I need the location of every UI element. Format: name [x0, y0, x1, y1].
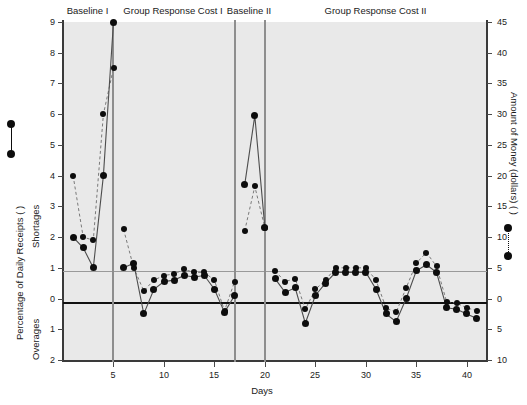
- phase-label: Baseline I: [67, 5, 109, 16]
- data-point: [242, 228, 248, 234]
- data-point: [221, 309, 228, 316]
- y-tick-right: [487, 206, 492, 207]
- y-tick-right: [487, 145, 492, 146]
- y-tick-left: [58, 299, 63, 300]
- y-tick-label-right: 40: [497, 48, 515, 58]
- plot-background: [63, 22, 487, 360]
- y-tick-label-left: 7: [37, 78, 55, 88]
- data-point: [474, 308, 480, 314]
- zero-gridline: [63, 302, 487, 304]
- y-tick-label-right: 0: [497, 294, 515, 304]
- data-point: [272, 275, 279, 282]
- x-tick-label: 10: [152, 370, 176, 380]
- y-axis-left-title: Percentage of Daily Receipts ( ): [14, 206, 25, 340]
- y-tick-right: [487, 268, 492, 269]
- y-tick-left: [58, 237, 63, 238]
- data-point: [332, 269, 339, 276]
- data-point: [80, 244, 87, 251]
- x-tick-label: 25: [303, 370, 327, 380]
- y-tick-right: [487, 83, 492, 84]
- data-point: [232, 279, 238, 285]
- y-axis-left-upper-title: Shortages: [30, 205, 41, 248]
- y-tick-right: [487, 53, 492, 54]
- y-tick-right: [487, 176, 492, 177]
- x-tick: [416, 362, 417, 367]
- data-point: [211, 286, 218, 293]
- legend-right-dot-bottom: [504, 252, 512, 260]
- data-point: [393, 318, 400, 325]
- phase-divider-1: [112, 20, 114, 362]
- y-tick-left: [58, 329, 63, 330]
- phase-label: Group Response Cost I: [123, 5, 222, 16]
- x-tick: [467, 362, 468, 367]
- data-point: [171, 277, 178, 284]
- y-axis-left: [62, 20, 64, 362]
- data-point: [151, 277, 157, 283]
- x-tick: [315, 362, 316, 367]
- data-point: [373, 286, 380, 293]
- y-tick-left: [58, 22, 63, 23]
- legend-right-dot-top: [504, 224, 512, 232]
- data-point: [423, 250, 429, 256]
- phase-divider-2: [234, 20, 236, 362]
- data-point: [282, 289, 289, 296]
- data-point: [322, 280, 329, 287]
- legend-left-dot-bottom: [7, 150, 15, 158]
- phase-label: Group Response Cost II: [325, 5, 427, 16]
- y-tick-right: [487, 299, 492, 300]
- y-tick-left: [58, 83, 63, 84]
- data-point: [292, 276, 298, 282]
- data-point: [282, 279, 288, 285]
- x-tick-label: 5: [101, 370, 125, 380]
- x-tick: [164, 362, 165, 367]
- data-point: [70, 234, 77, 241]
- y-tick-label-right: 5: [497, 324, 515, 334]
- data-point: [110, 19, 117, 26]
- y-tick-label-right: 10: [497, 355, 515, 365]
- y-tick-left: [58, 176, 63, 177]
- x-tick-label: 35: [404, 370, 428, 380]
- data-point: [433, 269, 440, 276]
- x-tick: [214, 362, 215, 367]
- x-tick: [265, 362, 266, 367]
- y-axis-left-lower-title: Overages: [30, 319, 41, 360]
- data-point: [403, 295, 410, 302]
- data-point: [383, 310, 390, 317]
- y-tick-right: [487, 329, 492, 330]
- y-tick-right: [487, 114, 492, 115]
- data-point: [403, 285, 409, 291]
- y-tick-left: [58, 206, 63, 207]
- phase-label: Baseline II: [227, 5, 271, 16]
- data-point: [111, 65, 117, 71]
- data-point: [292, 284, 299, 291]
- y-tick-label-left: 6: [37, 109, 55, 119]
- legend-left-dot-top: [7, 120, 15, 128]
- data-point: [272, 268, 278, 274]
- x-tick: [113, 362, 114, 367]
- y-tick-label-left: 8: [37, 48, 55, 58]
- data-point: [181, 272, 188, 279]
- data-point: [453, 306, 460, 313]
- y-axis-right: [486, 20, 488, 362]
- y-tick-left: [58, 114, 63, 115]
- data-point: [100, 172, 107, 179]
- y-tick-left: [58, 360, 63, 361]
- y-tick-label-left: 4: [37, 171, 55, 181]
- y-tick-label-right: 5: [497, 263, 515, 273]
- x-tick-label: 15: [202, 370, 226, 380]
- chart-root: 987654321012 454035302520151050510 51015…: [0, 0, 527, 405]
- x-tick-label: 40: [455, 370, 479, 380]
- data-point: [141, 288, 147, 294]
- data-point: [201, 272, 208, 279]
- y-tick-right: [487, 22, 492, 23]
- phase-divider-3: [264, 20, 266, 362]
- y-tick-left: [58, 145, 63, 146]
- data-point: [70, 173, 76, 179]
- data-point: [161, 278, 168, 285]
- data-point: [191, 274, 198, 281]
- y-tick-label-right: 45: [497, 17, 515, 27]
- y-tick-left: [58, 53, 63, 54]
- y-tick-label-right: 10: [497, 232, 515, 242]
- y-tick-right: [487, 360, 492, 361]
- x-tick-label: 30: [354, 370, 378, 380]
